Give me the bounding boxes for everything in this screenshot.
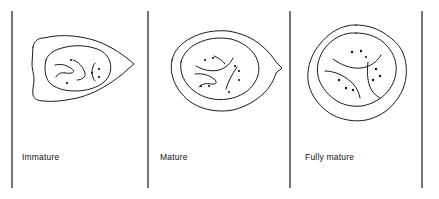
granule xyxy=(91,72,93,74)
granule xyxy=(66,82,68,84)
chromatin-squiggle-fully-mature-2 xyxy=(325,71,360,98)
panel-label-immature: Immature xyxy=(22,152,60,162)
granule xyxy=(238,70,240,72)
granule xyxy=(212,57,214,59)
chromatin-squiggle-mature-4 xyxy=(214,56,225,64)
granule xyxy=(338,79,340,81)
inner-nucleus-fully-mature xyxy=(317,33,396,106)
granule xyxy=(70,59,72,61)
granule xyxy=(234,65,236,67)
chromatin-squiggle-fully-mature-1 xyxy=(333,55,381,68)
granule xyxy=(379,75,381,77)
granule xyxy=(345,87,347,89)
panel-label-mature: Mature xyxy=(160,152,188,162)
panel-mature-drawing xyxy=(171,31,282,111)
granule xyxy=(228,91,230,93)
cell-maturation-figure: Immature Mature Fully mature xyxy=(0,0,439,199)
chromatin-squiggle-mature-2 xyxy=(195,74,216,87)
chromatin-squiggle-immature-1 xyxy=(55,64,74,77)
granule xyxy=(360,50,362,52)
granule xyxy=(200,85,202,87)
chromatin-squiggle-immature-2 xyxy=(73,60,85,80)
granule xyxy=(204,59,206,61)
granule xyxy=(98,76,100,78)
inner-nucleus-immature xyxy=(45,46,111,91)
granule xyxy=(238,79,240,81)
granule xyxy=(375,68,377,70)
chromatin-squiggle-immature-3 xyxy=(92,63,95,81)
granule xyxy=(365,56,367,58)
panel-immature-drawing xyxy=(32,36,134,102)
granule xyxy=(208,85,210,87)
chromatin-squiggle-mature-3 xyxy=(226,67,237,89)
granule xyxy=(352,89,354,91)
panel-fully-mature-drawing xyxy=(308,25,407,121)
chromatin-squiggle-mature-1 xyxy=(196,58,233,71)
granule xyxy=(98,68,100,70)
granule xyxy=(351,51,353,53)
figure-canvas xyxy=(0,0,439,199)
inner-nucleus-mature xyxy=(181,38,259,100)
granule xyxy=(372,79,374,81)
panel-label-fully-mature: Fully mature xyxy=(305,152,354,162)
